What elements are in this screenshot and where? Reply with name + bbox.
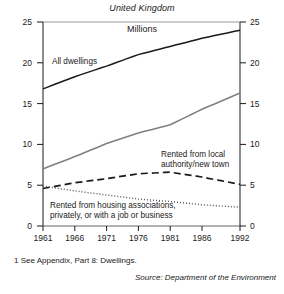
y-tick-right-25: 25 [250,18,268,27]
y-tick-right-20: 20 [250,59,268,68]
x-tick-1961: 1961 [28,234,58,243]
y-tick-right-10: 10 [250,140,268,149]
series-label-all-dwellings: All dwellings [52,57,97,67]
series-label-housing-assoc-line2: privately, or with a job or business [50,211,173,221]
x-tick-1966: 1966 [60,234,90,243]
y-tick-right-15: 15 [250,100,268,109]
y-tick-left-25: 25 [14,18,32,27]
y-tick-left-15: 15 [14,100,32,109]
plot-area: 25 20 15 10 5 0 25 20 15 10 5 0 1961 196… [0,0,284,250]
y-tick-right-0: 0 [250,222,268,231]
y-tick-right-5: 5 [250,181,268,190]
series-label-local-authority-line1: Rented from local [161,150,225,160]
y-tick-left-5: 5 [14,181,32,190]
y-tick-left-0: 0 [14,222,32,231]
x-tick-1986: 1986 [187,234,217,243]
x-tick-1971: 1971 [92,234,122,243]
chart-figure: United Kingdom Millions [0,0,284,294]
x-tick-1992: 1992 [225,234,255,243]
y-tick-left-10: 10 [14,140,32,149]
y-tick-left-20: 20 [14,59,32,68]
y-axis-right-ticks [240,22,246,226]
x-tick-1981: 1981 [155,234,185,243]
series-local-authority [43,172,240,188]
chart-footnote: 1 See Appendix, Part 8: Dwellings. [14,256,137,266]
x-tick-1976: 1976 [123,234,153,243]
y-axis-left-ticks [37,22,43,226]
chart-source: Source: Department of the Environment [135,273,276,283]
series-label-housing-assoc-line1: Rented from housing associations, [50,201,176,211]
series-label-local-authority-line2: authority/new town [161,160,229,170]
